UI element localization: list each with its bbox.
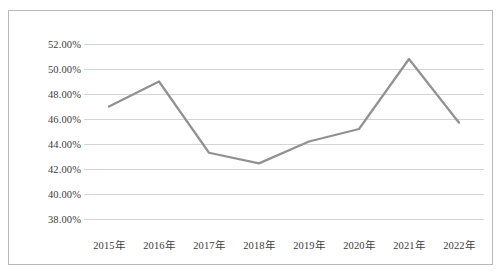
x-axis-tick-label: 2022年 <box>443 237 475 252</box>
chart-plot-area: 52.00%50.00%48.00%46.00%44.00%42.00%40.0… <box>9 11 494 266</box>
x-axis-tick-label: 2017年 <box>193 237 225 252</box>
line-chart-svg <box>9 11 494 266</box>
x-axis-tick-label: 2015年 <box>93 237 125 252</box>
x-axis-tick-label: 2020年 <box>343 237 375 252</box>
y-axis-tick-label: 52.00% <box>48 39 81 50</box>
y-axis-tick-labels: 52.00%50.00%48.00%46.00%44.00%42.00%40.0… <box>21 11 81 266</box>
series-line <box>109 59 459 163</box>
y-axis-tick-label: 40.00% <box>48 189 81 200</box>
y-axis-tick-label: 38.00% <box>48 214 81 225</box>
data-series-group <box>109 59 459 163</box>
y-axis-tick-label: 44.00% <box>48 139 81 150</box>
y-axis-tick-label: 48.00% <box>48 89 81 100</box>
y-axis-tick-label: 50.00% <box>48 64 81 75</box>
chart-figure-frame: 52.00%50.00%48.00%46.00%44.00%42.00%40.0… <box>8 10 493 265</box>
x-axis-tick-labels: 2015年2016年2017年2018年2019年2020年2021年2022年 <box>9 237 494 261</box>
y-axis-tick-label: 42.00% <box>48 164 81 175</box>
x-axis-tick-label: 2019年 <box>293 237 325 252</box>
x-axis-tick-label: 2018年 <box>243 237 275 252</box>
x-axis-tick-label: 2021年 <box>393 237 425 252</box>
x-axis-tick-label: 2016年 <box>143 237 175 252</box>
y-axis-tick-label: 46.00% <box>48 114 81 125</box>
gridlines-group <box>84 44 484 219</box>
